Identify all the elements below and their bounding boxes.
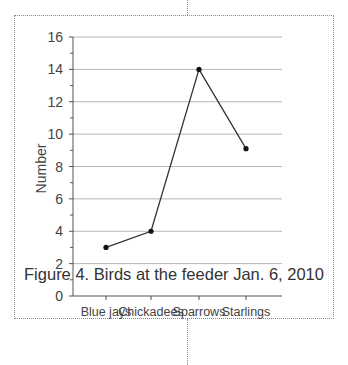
line-chart: 0246810121416Blue jaysChickadeesSparrows… [0,0,348,365]
y-tick-label: 0 [55,288,63,304]
data-point [243,146,248,151]
y-tick-label: 14 [47,61,63,77]
x-tick-label: Starlings [222,305,271,319]
figure-caption: Figure 4. Birds at the feeder Jan. 6, 20… [0,265,348,284]
x-tick-label: Sparrows [173,305,226,319]
data-point [196,67,201,72]
data-point [103,245,108,250]
data-point [148,229,153,234]
y-tick-label: 12 [47,94,63,110]
y-tick-label: 4 [55,223,63,239]
y-tick-label: 16 [47,29,63,45]
y-tick-label: 8 [55,159,63,175]
y-tick-label: 10 [47,126,63,142]
data-line [106,69,246,247]
y-axis-label: Number [33,143,49,193]
y-tick-label: 6 [55,191,63,207]
